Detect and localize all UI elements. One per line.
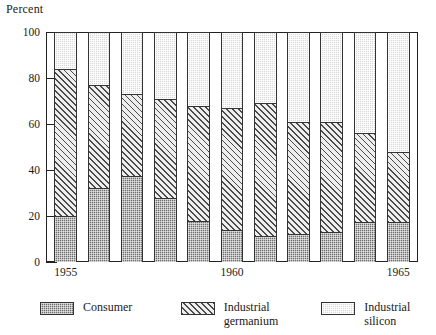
bar-segment-silicon <box>320 32 343 122</box>
x-axis-tick-label <box>348 266 381 282</box>
bar-segment-germanium <box>54 69 77 216</box>
bar-segment-consumer <box>320 232 343 262</box>
bar-slot <box>315 32 348 262</box>
bar-segment-silicon <box>287 32 310 122</box>
legend-swatch-silicon <box>321 302 355 315</box>
bar-slot <box>116 32 149 262</box>
bar-segment-consumer <box>54 216 77 262</box>
bar-segment-consumer <box>88 188 111 262</box>
bar-segment-silicon <box>254 32 277 103</box>
bar-segment-silicon <box>88 32 111 85</box>
bar-segment-consumer <box>221 230 244 262</box>
bar-segment-consumer <box>387 222 410 262</box>
x-axis-tick-label <box>182 266 215 282</box>
stacked-bar-series <box>46 32 418 262</box>
bar-segment-silicon <box>387 32 410 152</box>
x-axis-tick-label <box>82 266 115 282</box>
bar-slot <box>215 32 248 262</box>
bar-slot <box>282 32 315 262</box>
bar-segment-silicon <box>187 32 210 106</box>
x-axis-tick-label: 1965 <box>382 266 415 282</box>
bar-segment-silicon <box>54 32 77 69</box>
legend-swatch-germanium <box>181 302 215 315</box>
bar-segment-silicon <box>221 32 244 108</box>
bar-segment-germanium <box>287 122 310 235</box>
bar-slot <box>382 32 415 262</box>
bar-segment-consumer <box>287 234 310 262</box>
legend-label-line2: germanium <box>224 314 279 328</box>
bar-segment-consumer <box>121 176 144 262</box>
bar-segment-consumer <box>187 221 210 262</box>
stacked-bar <box>354 32 377 262</box>
y-axis-tick-label: 100 <box>0 26 40 38</box>
stacked-bar <box>88 32 111 262</box>
y-axis-tick-label: 40 <box>0 164 40 176</box>
x-axis-tick-label <box>315 266 348 282</box>
x-axis-tick-label <box>149 266 182 282</box>
y-axis-tick-label: 80 <box>0 72 40 84</box>
stacked-bar <box>320 32 343 262</box>
y-axis-tick <box>46 262 57 263</box>
bar-segment-consumer <box>354 222 377 262</box>
bar-segment-germanium <box>221 108 244 230</box>
bar-segment-germanium <box>254 103 277 235</box>
y-axis-title: Percent <box>6 2 43 17</box>
bar-segment-germanium <box>187 106 210 221</box>
y-axis-tick-label: 20 <box>0 210 40 222</box>
legend-item: Industrialgermanium <box>181 300 322 328</box>
legend-item: Industrial silicon <box>321 300 436 328</box>
x-axis-tick-label <box>116 266 149 282</box>
legend-label: Industrialgermanium <box>224 300 279 328</box>
x-axis-tick-label <box>282 266 315 282</box>
bar-segment-consumer <box>154 198 177 262</box>
bar-segment-germanium <box>154 99 177 198</box>
bar-slot <box>149 32 182 262</box>
bar-segment-germanium <box>387 152 410 222</box>
stacked-bar <box>54 32 77 262</box>
legend-label: Industrial silicon <box>364 300 436 328</box>
legend-swatch-consumer <box>40 302 74 315</box>
bar-slot <box>348 32 381 262</box>
legend-label: Consumer <box>83 300 132 314</box>
stacked-bar <box>221 32 244 262</box>
bar-slot <box>249 32 282 262</box>
stacked-bar <box>187 32 210 262</box>
legend-item: Consumer <box>40 300 181 315</box>
x-axis-tick-label: 1960 <box>215 266 248 282</box>
y-axis-tick-label: 60 <box>0 118 40 130</box>
stacked-bar <box>387 32 410 262</box>
bar-segment-germanium <box>320 122 343 232</box>
x-axis-tick-label <box>249 266 282 282</box>
stacked-bar <box>254 32 277 262</box>
x-axis-labels: 195519601965 <box>46 266 418 282</box>
bar-segment-germanium <box>88 85 111 189</box>
bar-slot <box>82 32 115 262</box>
bar-segment-silicon <box>354 32 377 133</box>
bar-segment-consumer <box>254 236 277 262</box>
bar-segment-silicon <box>121 32 144 94</box>
bar-segment-germanium <box>121 94 144 176</box>
bar-segment-silicon <box>154 32 177 99</box>
bar-segment-germanium <box>354 133 377 222</box>
stacked-bar <box>121 32 144 262</box>
bar-slot <box>49 32 82 262</box>
x-axis-tick-label: 1955 <box>49 266 82 282</box>
bar-slot <box>182 32 215 262</box>
y-axis-tick-label: 0 <box>0 256 40 268</box>
chart-legend: ConsumerIndustrialgermaniumIndustrial si… <box>40 300 436 328</box>
stacked-bar <box>154 32 177 262</box>
stacked-bar <box>287 32 310 262</box>
